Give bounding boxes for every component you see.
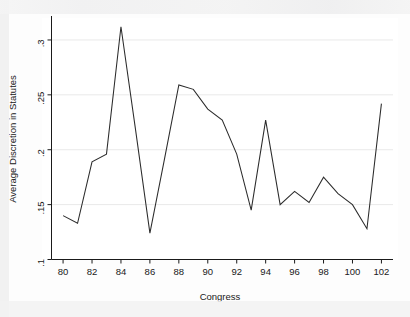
y-tick-label: .2 xyxy=(36,149,47,157)
x-tick-label: 94 xyxy=(260,266,271,277)
x-tick-label: 80 xyxy=(58,266,69,277)
x-tick-label: 84 xyxy=(116,266,127,277)
scan-artifact-band xyxy=(0,0,410,14)
x-axis-ticks-group: 80828486889092949698100102 xyxy=(58,260,390,277)
x-tick-label: 88 xyxy=(174,266,185,277)
line-chart-plot: .1.15.2.25.3 80828486889092949698100102 … xyxy=(0,0,410,317)
page-edge-bottom xyxy=(0,301,410,317)
y-tick-label: .3 xyxy=(36,39,47,47)
y-tick-label: .25 xyxy=(36,92,47,105)
x-tick-label: 102 xyxy=(373,266,389,277)
page-edge-left xyxy=(0,0,9,317)
x-tick-label: 96 xyxy=(289,266,300,277)
x-tick-label: 90 xyxy=(202,266,213,277)
x-tick-label: 82 xyxy=(87,266,98,277)
x-tick-label: 86 xyxy=(145,266,156,277)
x-tick-label: 98 xyxy=(318,266,329,277)
plot-background xyxy=(42,18,398,260)
x-tick-label: 100 xyxy=(345,266,361,277)
chart-figure: .1.15.2.25.3 80828486889092949698100102 … xyxy=(0,0,410,317)
y-tick-label: .1 xyxy=(36,259,47,267)
x-tick-label: 92 xyxy=(231,266,242,277)
y-tick-label: .15 xyxy=(36,201,47,214)
